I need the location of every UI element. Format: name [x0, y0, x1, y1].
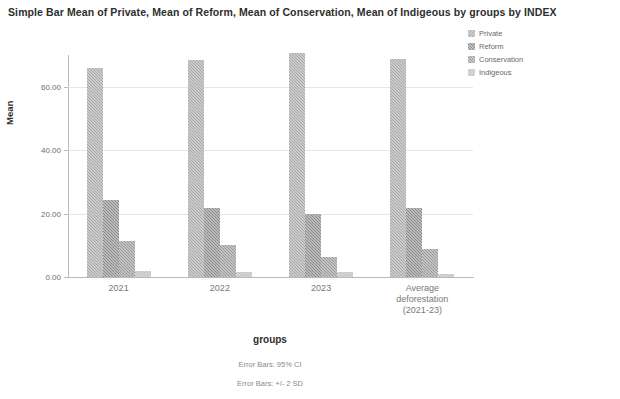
legend-label: Indigeous	[479, 68, 512, 77]
error-bars-note-sd: Error Bars: +/- 2 SD	[0, 379, 540, 388]
y-axis-tick-label: 0.00	[45, 273, 61, 282]
bar-private-0[interactable]	[87, 68, 103, 277]
bar-conservation-3[interactable]	[422, 249, 438, 277]
y-axis-tick-label: 20.00	[41, 209, 61, 218]
plot-area: 0.0020.0040.0060.00	[68, 55, 473, 277]
y-axis-tick	[64, 277, 68, 278]
bar-private-1[interactable]	[188, 60, 204, 277]
bar-conservation-2[interactable]	[321, 257, 337, 277]
bar-conservation-0[interactable]	[119, 241, 135, 277]
x-axis-title: groups	[0, 334, 540, 345]
bar-indigeous-1[interactable]	[236, 272, 252, 277]
legend-label: Reform	[479, 42, 504, 51]
x-axis-category-label: 2021	[68, 283, 169, 294]
legend-item-private[interactable]: Private	[468, 28, 608, 39]
x-axis-category-label-line: 2021	[68, 283, 169, 294]
bar-private-2[interactable]	[289, 53, 305, 277]
bar-chart: Simple Bar Mean of Private, Mean of Refo…	[0, 0, 620, 399]
bar-private-3[interactable]	[390, 59, 406, 277]
x-axis-category-label-line: 2023	[271, 283, 372, 294]
legend-item-reform[interactable]: Reform	[468, 41, 608, 52]
bar-group	[68, 55, 169, 277]
chart-title: Simple Bar Mean of Private, Mean of Refo…	[8, 6, 557, 18]
error-bars-note-ci: Error Bars: 95% CI	[0, 360, 540, 369]
x-axis-line	[68, 277, 474, 278]
legend-item-indigeous[interactable]: Indigeous	[468, 67, 608, 78]
bar-group	[372, 55, 473, 277]
x-axis-category-label-line: (2021-23)	[372, 305, 473, 316]
legend-label: Private	[479, 29, 502, 38]
chart-legend: PrivateReformConservationIndigeous	[468, 28, 608, 80]
x-axis-category-label-line: Average	[372, 283, 473, 294]
y-axis-tick-label: 60.00	[41, 82, 61, 91]
legend-label: Conservation	[479, 55, 523, 64]
bar-reform-3[interactable]	[406, 208, 422, 277]
bar-indigeous-3[interactable]	[438, 274, 454, 277]
bar-group	[271, 55, 372, 277]
bar-indigeous-0[interactable]	[135, 271, 151, 277]
legend-swatch-icon	[468, 43, 475, 50]
x-axis-category-label: 2023	[271, 283, 372, 294]
x-axis-category-label: Averagedeforestation(2021-23)	[372, 283, 473, 316]
x-axis-category-label: 2022	[169, 283, 270, 294]
x-axis-category-label-line: deforestation	[372, 294, 473, 305]
bar-reform-0[interactable]	[103, 200, 119, 277]
bar-reform-1[interactable]	[204, 208, 220, 277]
bar-group	[169, 55, 270, 277]
legend-item-conservation[interactable]: Conservation	[468, 54, 608, 65]
x-axis-category-label-line: 2022	[169, 283, 270, 294]
y-axis-tick-label: 40.00	[41, 146, 61, 155]
bar-conservation-1[interactable]	[220, 245, 236, 277]
y-axis-title: Mean	[4, 101, 15, 125]
bar-indigeous-2[interactable]	[337, 272, 353, 277]
legend-swatch-icon	[468, 30, 475, 37]
bar-reform-2[interactable]	[305, 214, 321, 277]
